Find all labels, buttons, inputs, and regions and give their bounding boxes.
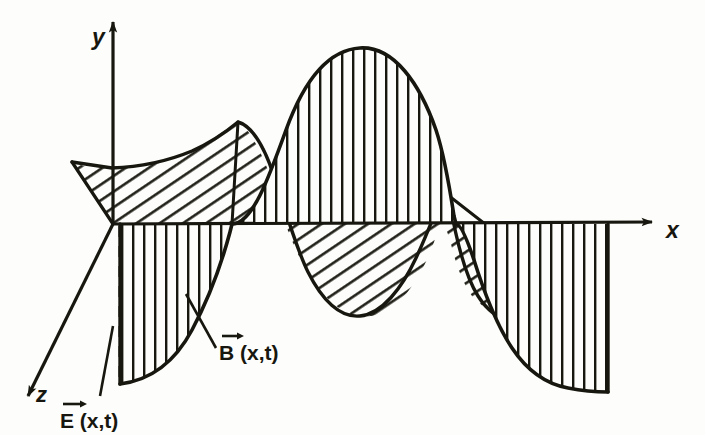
b-field-label: B (x,t) xyxy=(219,341,279,364)
y-axis-label: y xyxy=(91,24,106,50)
x-axis-label: x xyxy=(664,217,680,243)
em-wave-diagram: y x z E (x,t) B (x,t) xyxy=(0,0,705,435)
z-axis-label: z xyxy=(35,382,47,407)
x-axis-line xyxy=(113,222,652,224)
e-field-label: E (x,t) xyxy=(60,409,118,432)
em-wave-figure: y x z E (x,t) B (x,t) xyxy=(0,0,705,435)
